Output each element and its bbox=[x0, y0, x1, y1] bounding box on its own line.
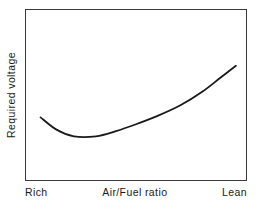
chart-figure: Required voltage Rich Air/Fuel ratio Lea… bbox=[0, 0, 259, 209]
x-axis-label-center: Air/Fuel ratio bbox=[102, 186, 167, 198]
x-axis-label-rich: Rich bbox=[25, 186, 48, 198]
y-axis-label-text: Required voltage bbox=[5, 52, 17, 138]
x-axis-label-row: Rich Air/Fuel ratio Lean bbox=[25, 186, 247, 204]
plot-area-frame bbox=[25, 9, 247, 181]
y-axis-label: Required voltage bbox=[0, 0, 22, 190]
x-axis-label-lean: Lean bbox=[222, 186, 247, 198]
